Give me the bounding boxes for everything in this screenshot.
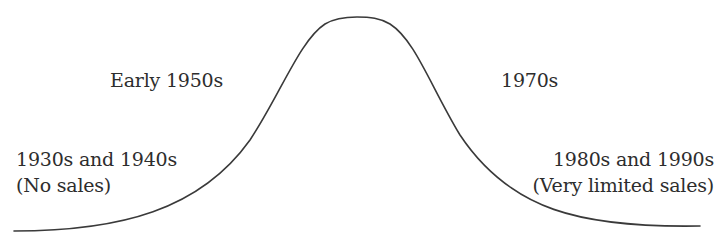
label-1930s-1940s-line2: (No sales): [16, 172, 177, 198]
label-1930s-1940s-line1: 1930s and 1940s: [16, 146, 177, 172]
label-1970s: 1970s: [501, 67, 558, 93]
label-1980s-1990s-line2: (Very limited sales): [533, 172, 714, 198]
sales-curve: [14, 17, 700, 231]
bell-curve-graphic: [0, 0, 727, 237]
label-1980s-1990s-line1: 1980s and 1990s: [533, 146, 714, 172]
bell-curve-diagram: Early 1950s 1970s 1930s and 1940s (No sa…: [0, 0, 727, 237]
label-early-1950s: Early 1950s: [110, 67, 223, 93]
label-early-1950s-text: Early 1950s: [110, 67, 223, 93]
label-1930s-1940s: 1930s and 1940s (No sales): [16, 146, 177, 198]
label-1970s-text: 1970s: [501, 67, 558, 93]
label-1980s-1990s: 1980s and 1990s (Very limited sales): [533, 146, 714, 198]
